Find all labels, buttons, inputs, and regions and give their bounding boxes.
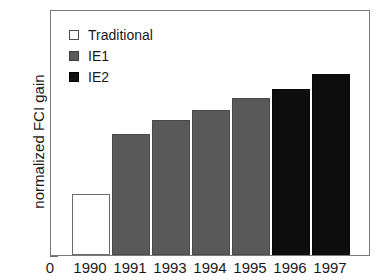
y-axis-title: normalized FCI gain	[30, 42, 47, 242]
bar-1996	[272, 89, 310, 255]
bar-1990	[72, 194, 110, 256]
legend-item-label: IE1	[88, 48, 109, 64]
bar-1994	[192, 110, 230, 255]
x-axis-tick-label: 1994	[193, 259, 226, 276]
bar-chart-figure: normalized FCI gain 00.20.40.60.81 Tradi…	[0, 0, 377, 280]
legend-item-label: IE2	[88, 69, 109, 85]
x-axis-tick-label: 1991	[113, 259, 146, 276]
x-axis-tick-label: 1995	[233, 259, 266, 276]
x-axis-tick-label: 1996	[273, 259, 306, 276]
white-square-icon	[69, 30, 79, 40]
black-square-icon	[69, 72, 79, 82]
y-axis-tick	[50, 256, 58, 257]
x-axis-tick-label: 0	[46, 259, 54, 276]
legend-item-label: Traditional	[88, 27, 153, 43]
bar-1997	[312, 74, 350, 255]
bar-1995	[232, 98, 270, 255]
x-axis-tick-label: 1997	[313, 259, 346, 276]
legend-item-traditional: Traditional	[69, 24, 153, 45]
chart-legend: TraditionalIE1IE2	[69, 24, 153, 87]
legend-item-ie1: IE1	[69, 45, 153, 66]
plot-area: TraditionalIE1IE2	[50, 10, 370, 256]
x-axis-tick-label: 1990	[73, 259, 106, 276]
bar-1991	[112, 134, 150, 255]
x-axis-tick-label: 1993	[153, 259, 186, 276]
bar-1993	[152, 120, 190, 255]
gray-square-icon	[69, 51, 79, 61]
legend-item-ie2: IE2	[69, 66, 153, 87]
